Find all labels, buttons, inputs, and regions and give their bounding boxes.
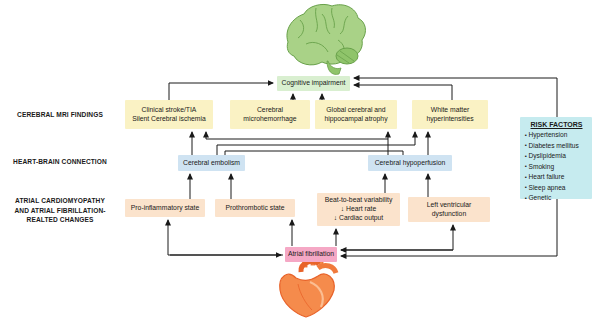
row-label-line: AND ATRIAL FIBRILLATION- xyxy=(4,206,116,216)
risk-factor-item: Hypertension xyxy=(525,130,588,141)
node-label: Atrial fibrillation xyxy=(288,250,334,259)
node-label-line: microhemorrhage xyxy=(243,115,296,124)
row-label-heart-brain-connection: HEART-BRAIN CONNECTION xyxy=(4,157,116,167)
risk-factor-item: Smoking xyxy=(525,162,588,173)
node-label-line: Silent Cerebral ischemia xyxy=(132,115,206,124)
brain-icon xyxy=(287,4,366,74)
risk-factor-item: Dyslipidemia xyxy=(525,151,588,162)
node-global-cerebral-atrophy: Global cerebral and hippocampal atrophy xyxy=(315,100,397,129)
node-prothrombotic-state: Prothrombotic state xyxy=(215,199,295,217)
node-label: Pro-inflammatory state xyxy=(131,204,199,213)
row-label-cerebral-mri-findings: CEREBRAL MRI FINDINGS xyxy=(4,110,116,120)
node-label-line: White matter xyxy=(431,106,470,115)
node-clinical-stroke: Clinical stroke/TIA Silent Cerebral isch… xyxy=(125,100,213,129)
risk-factor-item: Sleep apnea xyxy=(525,183,588,194)
node-atrial-fibrillation: Atrial fibrillation xyxy=(285,247,337,262)
node-left-ventricular-dysfunction: Left ventricular dysfunction xyxy=(408,197,490,222)
node-beat-to-beat-variability: Beat-to-beat variability ↓ Heart rate ↓ … xyxy=(317,193,400,226)
row-label-line: REALTED CHANGES xyxy=(4,215,116,225)
node-cerebral-microhemorrhage: Cerebral microhemorrhage xyxy=(230,100,310,129)
node-label: Cerebral embolism xyxy=(183,159,240,168)
node-label-line: ↓ Cardiac output xyxy=(334,214,384,223)
row-label-atrial-cardiomyopathy: ATRIAL CARDIOMYOPATHY AND ATRIAL FIBRILL… xyxy=(4,196,116,225)
node-label-line: hippocampal atrophy xyxy=(324,115,387,124)
row-label-line: ATRIAL CARDIOMYOPATHY xyxy=(4,196,116,206)
node-cognitive-impairment: Cognitive impairment xyxy=(277,76,350,91)
risk-factor-item: Heart failure xyxy=(525,172,588,183)
risk-factors-title: RISK FACTORS xyxy=(525,121,588,128)
risk-factor-item: Genetic xyxy=(525,193,588,204)
risk-factor-item: Diabetes mellitus xyxy=(525,141,588,152)
risk-factors-panel: RISK FACTORS Hypertension Diabetes melli… xyxy=(520,117,592,199)
node-label-line: Clinical stroke/TIA xyxy=(142,106,197,115)
row-label-text: HEART-BRAIN CONNECTION xyxy=(4,157,116,167)
node-label-line: hyperintensities xyxy=(426,115,473,124)
node-label-line: dysfunction xyxy=(432,210,466,219)
node-label: Cognitive impairment xyxy=(282,79,346,88)
node-label-line: Beat-to-beat variability xyxy=(325,196,393,205)
node-label-line: ↓ Heart rate xyxy=(341,205,377,214)
node-label: Cerebral hypoperfusion xyxy=(375,159,446,168)
node-proinflammatory-state: Pro-inflammatory state xyxy=(125,199,205,217)
node-label: Prothrombotic state xyxy=(226,204,285,213)
node-cerebral-embolism: Cerebral embolism xyxy=(178,155,245,171)
node-white-matter-hyperintensities: White matter hyperintensities xyxy=(412,100,488,129)
node-label-line: Left ventricular xyxy=(427,201,472,210)
node-label-line: Cerebral xyxy=(257,106,283,115)
row-label-text: CEREBRAL MRI FINDINGS xyxy=(4,110,116,120)
risk-factors-list: Hypertension Diabetes mellitus Dyslipide… xyxy=(525,130,588,204)
node-label-line: Global cerebral and xyxy=(326,106,385,115)
node-cerebral-hypoperfusion: Cerebral hypoperfusion xyxy=(368,155,452,171)
heart-icon xyxy=(280,255,336,317)
diagram-canvas: CEREBRAL MRI FINDINGS HEART-BRAIN CONNEC… xyxy=(0,0,601,319)
